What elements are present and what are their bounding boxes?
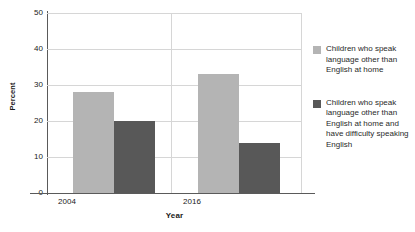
bar-2004-series1: [73, 92, 114, 193]
legend-swatch-icon: [313, 46, 321, 54]
x-axis-title: Year: [47, 211, 302, 220]
x-tick-label-2004: 2004: [27, 197, 107, 206]
gridline-50: [47, 13, 302, 14]
plot-right-border: [301, 13, 302, 193]
bar-2016-series2: [239, 143, 280, 193]
gridline-30: [47, 85, 302, 86]
category-divider: [171, 13, 172, 193]
gridline-40: [47, 49, 302, 50]
legend-item-1: Children who speak language other than E…: [313, 44, 413, 76]
legend-item-2: Children who speak language other than E…: [313, 98, 413, 151]
legend-swatch-icon: [313, 100, 321, 108]
plot-area: [47, 13, 302, 193]
y-tick-label: 30: [19, 81, 43, 89]
y-tick-label: 50: [19, 9, 43, 17]
bar-2004-series2: [114, 121, 155, 193]
y-tick-label: 40: [19, 45, 43, 53]
y-tick-label: 10: [19, 153, 43, 161]
x-tick-label-2016: 2016: [152, 197, 232, 206]
legend-label: Children who speak language other than E…: [326, 44, 413, 76]
chart-legend: Children who speak language other than E…: [313, 44, 413, 164]
y-axis-title: Percent: [8, 67, 17, 127]
legend-label: Children who speak language other than E…: [326, 98, 413, 151]
x-axis-line: [30, 193, 315, 194]
bar-2016-series1: [198, 74, 239, 193]
bar-chart: Percent 50 40 30 20 10 0 2004 2016 Year: [0, 0, 415, 232]
y-tick-label: 20: [19, 117, 43, 125]
